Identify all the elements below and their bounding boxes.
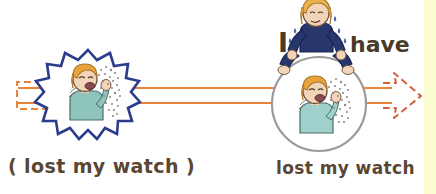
yellow-edge-strip [424, 0, 436, 194]
speech-word-subject: I [278, 27, 288, 58]
speech-word-verb: have [350, 32, 410, 57]
dashed-arrow-right-icon [383, 73, 421, 118]
diagram-canvas: I have ( lost my watch ) lost my watch [0, 0, 436, 194]
caption-right: lost my watch [276, 158, 415, 178]
caption-left: ( lost my watch ) [8, 155, 195, 177]
